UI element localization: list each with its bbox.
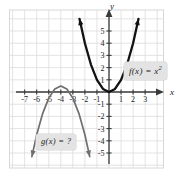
y-tick-label: 2 — [101, 64, 105, 73]
y-axis-label: y — [109, 1, 114, 11]
y-tick-label: 5 — [101, 27, 105, 36]
gx-callout-text: g(x) = ? — [41, 136, 71, 146]
fx-callout-label: f(x) = x2 — [124, 62, 167, 80]
x-tick-label: 2 — [131, 95, 135, 104]
x-tick-label: -6 — [33, 95, 40, 104]
x-tick-label: -7 — [21, 95, 28, 104]
y-tick-label: -1 — [98, 100, 105, 109]
math-figure: -7-6-5-4-3-2-112354321-1-2-3-4-5xy f(x) … — [0, 0, 180, 176]
fx-callout-text: f(x) = x — [129, 66, 158, 76]
x-tick-label: -2 — [82, 95, 89, 104]
gx-callout-label: g(x) = ? — [36, 134, 76, 150]
y-tick-label: 3 — [101, 51, 105, 60]
coordinate-plane: -7-6-5-4-3-2-112354321-1-2-3-4-5xy — [0, 0, 180, 176]
x-tick-label: 3 — [143, 95, 147, 104]
x-tick-label: 1 — [119, 95, 123, 104]
fx-exponent: 2 — [158, 64, 162, 71]
x-axis-label: x — [169, 87, 174, 97]
y-tick-label: -5 — [98, 149, 105, 158]
y-tick-label: -3 — [98, 125, 105, 134]
y-tick-label: -4 — [98, 137, 105, 146]
y-tick-label: 1 — [101, 76, 105, 85]
x-tick-label: -4 — [57, 95, 64, 104]
y-tick-label: -2 — [98, 112, 105, 121]
y-tick-label: 4 — [101, 39, 105, 48]
